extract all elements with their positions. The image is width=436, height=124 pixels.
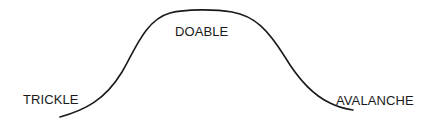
bell-curve-diagram: TRICKLE DOABLE AVALANCHE	[0, 0, 436, 124]
label-doable: DOABLE	[175, 25, 228, 38]
label-trickle: TRICKLE	[23, 93, 79, 106]
label-avalanche: AVALANCHE	[336, 94, 414, 107]
